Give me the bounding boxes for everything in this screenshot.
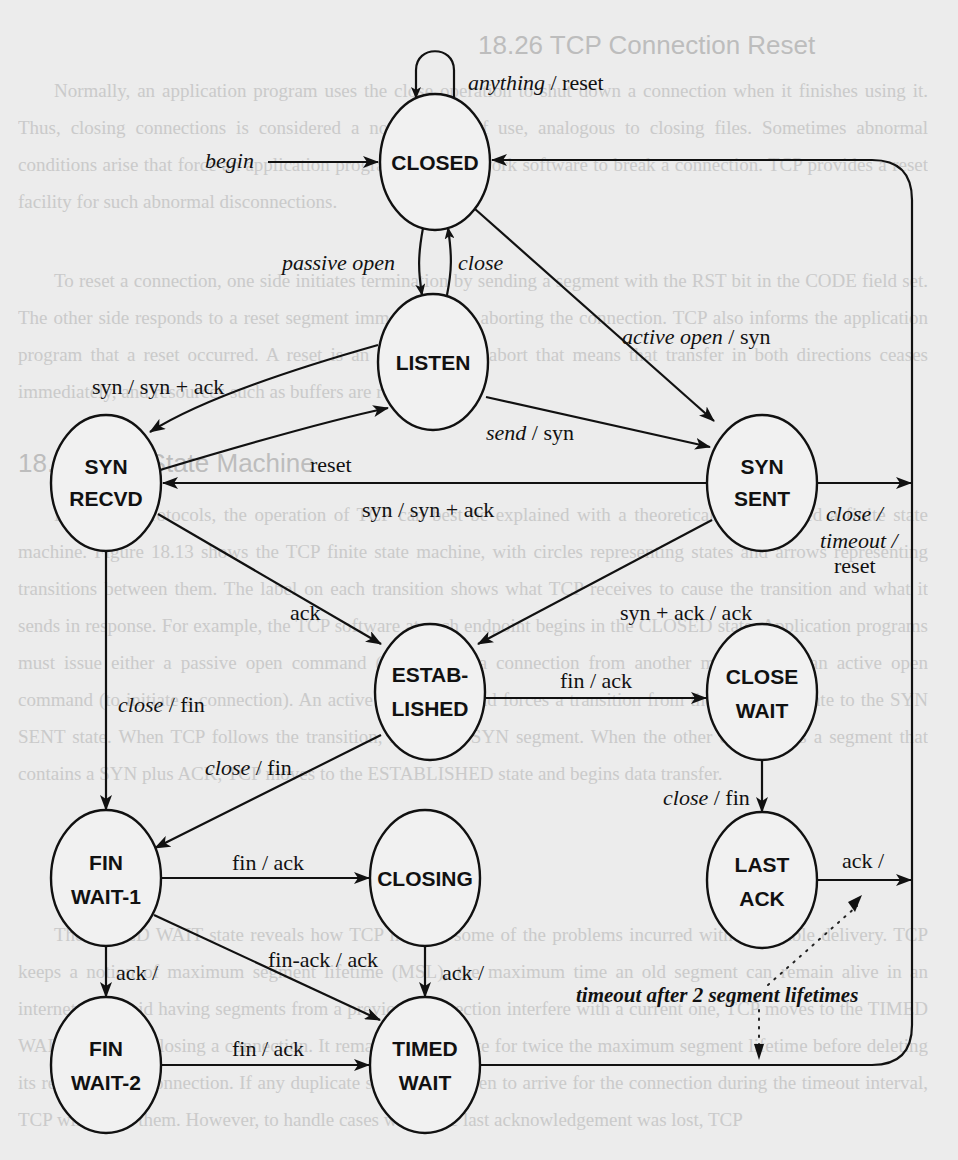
label-established-close-fin: close / fin <box>205 755 292 780</box>
state-fin-wait-2: FIN WAIT-2 <box>51 997 161 1133</box>
state-close-wait: CLOSE WAIT <box>707 624 817 760</box>
label-established-fin-ack: fin / ack <box>560 668 632 693</box>
label-syn-sent-reset: reset <box>834 553 876 578</box>
state-timed-wait: TIMED WAIT <box>370 997 480 1133</box>
label-listen-syn-syn-ack: syn / syn + ack <box>92 374 224 399</box>
state-label: CLOSING <box>377 867 473 890</box>
state-fin-wait-1: FIN WAIT-1 <box>51 810 161 946</box>
edge-established-to-fin-wait-1 <box>155 735 381 848</box>
state-label: CLOSED <box>391 151 479 174</box>
label-fin-ack-ack: fin-ack / ack <box>268 947 378 972</box>
tcp-state-machine-diagram: CLOSED LISTEN SYN RECVD SYN SENT ESTAB- … <box>0 0 958 1160</box>
state-label: WAIT-1 <box>71 885 141 908</box>
state-listen: LISTEN <box>378 294 488 430</box>
label-last-ack-ack: ack / <box>842 848 885 873</box>
label-syn-recvd-close-fin: close / fin <box>118 692 205 717</box>
state-syn-recvd: SYN RECVD <box>51 415 161 551</box>
state-last-ack: LAST ACK <box>707 812 817 948</box>
label-syn-sent-timeout: timeout / <box>820 528 899 553</box>
edge-syn-recvd-to-established <box>158 514 381 644</box>
state-label: LAST <box>735 853 790 876</box>
state-syn-sent: SYN SENT <box>707 415 817 551</box>
edge-closed-self-loop <box>416 51 454 100</box>
state-closed: CLOSED <box>380 94 490 230</box>
label-send-syn: send / syn <box>486 420 574 445</box>
label-syn-sent-close: close / <box>826 501 885 526</box>
label-active-open-syn: active open / syn <box>622 324 770 349</box>
state-closing: CLOSING <box>370 810 480 946</box>
label-passive-open: passive open <box>280 250 395 275</box>
label-simultaneous-syn-syn-ack: syn / syn + ack <box>362 497 494 522</box>
state-label: LISHED <box>391 697 468 720</box>
state-label: ACK <box>739 887 785 910</box>
state-label: TIMED <box>392 1037 457 1060</box>
state-label: WAIT-2 <box>71 1071 141 1094</box>
edge-closed-to-syn-sent <box>475 209 714 421</box>
edge-syn-recvd-to-listen <box>160 408 388 470</box>
label-anything-reset: anything / reset <box>468 70 604 95</box>
state-label: SYN <box>84 455 127 478</box>
state-label: WAIT <box>399 1071 452 1094</box>
edge-closed-to-listen <box>419 228 423 295</box>
label-closing-ack: ack / <box>442 960 485 985</box>
state-label: ESTAB- <box>392 663 469 686</box>
label-fin-wait-1-fin-ack: fin / ack <box>232 850 304 875</box>
state-label: FIN <box>89 1037 123 1060</box>
state-label: SYN <box>740 455 783 478</box>
label-ack: ack <box>290 600 321 625</box>
label-reset: reset <box>310 452 352 477</box>
label-close-wait-close-fin: close / fin <box>663 785 750 810</box>
edge-listen-to-closed <box>447 228 451 295</box>
label-begin: begin <box>205 148 254 173</box>
state-label: WAIT <box>736 699 789 722</box>
state-label: RECVD <box>69 487 143 510</box>
label-fin-wait-1-ack: ack / <box>116 960 159 985</box>
label-fin-wait-2-fin-ack: fin / ack <box>232 1036 304 1061</box>
state-established: ESTAB- LISHED <box>375 624 485 760</box>
state-label: FIN <box>89 851 123 874</box>
state-label: SENT <box>734 487 790 510</box>
label-syn-ack-ack: syn + ack / ack <box>620 600 752 625</box>
state-label: CLOSE <box>726 665 798 688</box>
edge-syn-sent-to-established <box>478 520 712 644</box>
timeout-pointer-arrowhead-down <box>754 1044 764 1060</box>
state-label: LISTEN <box>396 351 471 374</box>
label-timeout-2-segment-lifetimes: timeout after 2 segment lifetimes <box>576 983 858 1007</box>
label-close: close <box>458 250 503 275</box>
timeout-pointer-arrowhead-up <box>848 895 862 912</box>
